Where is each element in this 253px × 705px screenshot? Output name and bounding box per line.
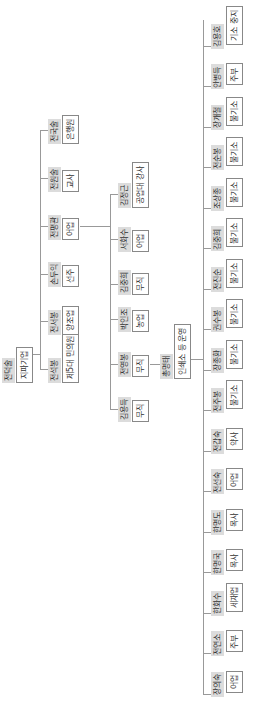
level3-name: 장의숙 — [211, 672, 224, 697]
connector — [203, 613, 211, 614]
level3-role: 불기소 — [226, 381, 243, 410]
level1-name: 전서봉 — [48, 310, 61, 335]
connector — [203, 87, 211, 88]
level2-name: 전영봉 — [118, 352, 131, 377]
connector — [80, 226, 110, 227]
level3-name: 한명국 — [211, 551, 224, 576]
level3-role: 목사 — [226, 509, 243, 531]
connector — [110, 194, 118, 195]
level2-name: 박인조 — [118, 307, 131, 332]
level3-role: 주부 — [226, 64, 243, 86]
level1-name: 전평관 — [48, 215, 61, 240]
root-role: 지파기업 — [16, 347, 33, 383]
level3-name: 조상종 — [211, 186, 224, 211]
level2-name: 서화수 — [118, 227, 131, 252]
connector — [191, 359, 203, 360]
connector — [110, 195, 111, 410]
connector — [203, 451, 211, 452]
level3-role: 기소 중지 — [226, 6, 243, 45]
connector — [203, 370, 211, 371]
level3-role: 어업 — [226, 671, 243, 693]
level3-role: 목사 — [226, 550, 243, 572]
connector — [203, 492, 211, 493]
level3-role: 불기소 — [226, 259, 243, 288]
connector — [40, 178, 48, 179]
level3-role: 약사 — [226, 428, 243, 450]
connector — [40, 130, 48, 131]
level2-name: 김용득 — [118, 397, 131, 422]
level3-name: 전연소 — [211, 632, 224, 657]
level3-name: 안병득 — [211, 65, 224, 90]
level3-name: 한명도 — [211, 510, 224, 535]
connector — [110, 284, 118, 285]
level1-role: 선주 — [62, 265, 79, 287]
level2b-name: 총명태 — [160, 354, 173, 379]
connector — [110, 409, 118, 410]
level1-role: 어업 — [62, 218, 79, 240]
connector — [110, 239, 118, 240]
level3-role: 불기소 — [226, 138, 243, 167]
connector — [203, 330, 211, 331]
level1-name: 전석봉 — [48, 358, 61, 383]
connector — [40, 226, 48, 227]
level1-role: 제5대 민의원 — [62, 332, 79, 383]
level3-role: 불기소 — [226, 219, 243, 248]
level2-name: 김정근 — [118, 183, 131, 208]
level2b-role: 인쇄소 등 운영 — [174, 324, 191, 379]
level2-role: 무직 — [132, 273, 149, 295]
level3-name: 전갑숙 — [211, 429, 224, 454]
level3-role: 세재업 — [226, 583, 243, 612]
connector — [33, 354, 40, 355]
connector — [203, 168, 211, 169]
connector — [40, 321, 48, 322]
connector — [203, 208, 211, 209]
connector — [203, 289, 211, 290]
level1-name: 손두익 — [48, 262, 61, 287]
level3-name: 전선숙 — [211, 470, 224, 495]
connector — [203, 532, 211, 533]
level3-role: 불기소 — [226, 97, 243, 126]
level3-role: 주부 — [226, 631, 243, 653]
level2-role: 무직 — [132, 355, 149, 377]
connector — [110, 364, 118, 365]
level3-name: 한화수 — [211, 591, 224, 616]
level3-name: 전주봉 — [211, 389, 224, 414]
level3-role: 불기소 — [226, 300, 243, 329]
family-tree: 전덕술 지파기업 전석봉 제5대 민의원 전서봉 양조업 손두익 선주 전평관 … — [0, 0, 253, 705]
connector — [203, 694, 211, 695]
level2-role: 농업 — [132, 310, 149, 332]
level3-name: 장종환 — [211, 348, 224, 373]
level1-role: 교사 — [62, 170, 79, 192]
connector — [203, 249, 211, 250]
connector — [203, 573, 211, 574]
connector — [203, 127, 211, 128]
connector — [40, 274, 48, 275]
level3-role: 어업 — [226, 469, 243, 491]
level2-role: 무직 — [132, 400, 149, 422]
connector — [203, 411, 211, 412]
level3-role: 불기소 — [226, 340, 243, 369]
level3-name: 권수봉 — [211, 308, 224, 333]
level3-name: 김중희 — [211, 227, 224, 252]
connector — [203, 20, 204, 695]
level1-role: 은행원 — [62, 115, 79, 144]
level1-role: 양조업 — [62, 306, 79, 335]
connector — [150, 364, 160, 365]
connector — [203, 654, 211, 655]
level1-name: 전원술 — [48, 167, 61, 192]
connector — [203, 46, 211, 47]
level2-role: 어업 — [132, 230, 149, 252]
level3-role: 불기소 — [226, 178, 243, 207]
connector — [40, 369, 48, 370]
level2-role: 공업대 강사 — [132, 162, 149, 208]
connector — [40, 130, 41, 370]
level3-name: 김용호 — [211, 24, 224, 49]
level2-name: 김중희 — [118, 270, 131, 295]
level1-name: 전국술 — [48, 119, 61, 144]
connector — [110, 319, 118, 320]
root-name: 전덕술 — [2, 358, 15, 383]
level3-name: 전순봉 — [211, 146, 224, 171]
level3-name: 장개철 — [211, 105, 224, 130]
level3-name: 전진순 — [211, 267, 224, 292]
